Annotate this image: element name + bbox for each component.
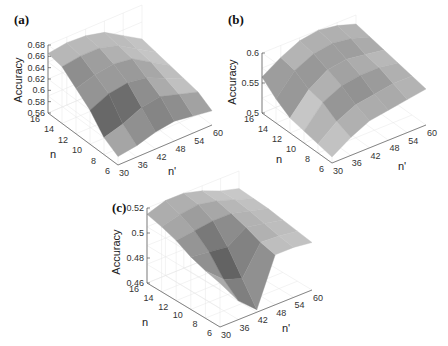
svg-text:16: 16 bbox=[30, 114, 40, 124]
svg-text:48: 48 bbox=[175, 144, 185, 154]
panel-b-zlabel: Accuracy bbox=[226, 59, 238, 105]
svg-text:0.58: 0.58 bbox=[27, 97, 45, 107]
svg-text:0.62: 0.62 bbox=[27, 74, 45, 84]
svg-text:0.64: 0.64 bbox=[27, 63, 45, 73]
panel-b-xlabel: n' bbox=[398, 160, 406, 172]
panel-b-surface-plot: (b) Accuracy n n' 0.50.550.6681012141630… bbox=[226, 12, 437, 176]
svg-text:36: 36 bbox=[138, 160, 148, 170]
svg-text:0.48: 0.48 bbox=[126, 253, 144, 263]
panel-b-ylabel: n bbox=[276, 153, 282, 165]
svg-text:54: 54 bbox=[194, 136, 204, 146]
svg-text:10: 10 bbox=[72, 145, 82, 155]
svg-text:14: 14 bbox=[44, 124, 54, 134]
svg-text:42: 42 bbox=[157, 152, 167, 162]
svg-text:14: 14 bbox=[258, 124, 268, 134]
svg-text:8: 8 bbox=[305, 154, 310, 164]
panel-a-label: (a) bbox=[14, 12, 29, 27]
panel-a-surface bbox=[48, 5, 212, 165]
svg-text:48: 48 bbox=[389, 143, 399, 153]
panel-c-surface bbox=[147, 171, 312, 327]
svg-text:0.68: 0.68 bbox=[27, 40, 45, 50]
panel-a-ylabel: n bbox=[50, 148, 56, 160]
svg-text:42: 42 bbox=[371, 151, 381, 161]
panel-c-label: (c) bbox=[112, 200, 126, 215]
svg-text:36: 36 bbox=[352, 158, 362, 168]
svg-text:0.6: 0.6 bbox=[32, 85, 45, 95]
panel-a-surface-plot: (a) Accuracy n n' 0.560.580.60.620.640.6… bbox=[12, 5, 223, 178]
panel-b-label: (b) bbox=[228, 12, 244, 27]
panel-a-xlabel: n' bbox=[168, 165, 176, 177]
svg-text:0.55: 0.55 bbox=[241, 78, 259, 88]
svg-text:48: 48 bbox=[276, 308, 286, 318]
svg-text:14: 14 bbox=[144, 293, 154, 303]
panel-b-surface bbox=[262, 15, 426, 163]
svg-text:6: 6 bbox=[319, 164, 324, 174]
svg-text:10: 10 bbox=[286, 144, 296, 154]
svg-text:12: 12 bbox=[272, 134, 282, 144]
svg-text:30: 30 bbox=[333, 166, 343, 176]
svg-text:0.52: 0.52 bbox=[126, 203, 144, 213]
svg-text:0.66: 0.66 bbox=[27, 51, 45, 61]
svg-text:6: 6 bbox=[105, 166, 110, 176]
svg-text:54: 54 bbox=[408, 136, 418, 146]
figure: (a) Accuracy n n' 0.560.580.60.620.640.6… bbox=[0, 0, 448, 346]
svg-text:60: 60 bbox=[213, 128, 223, 138]
panel-a-zlabel: Accuracy bbox=[12, 57, 24, 103]
svg-text:42: 42 bbox=[258, 315, 268, 325]
svg-text:10: 10 bbox=[173, 310, 183, 320]
svg-text:12: 12 bbox=[58, 135, 68, 145]
svg-text:0.5: 0.5 bbox=[131, 228, 144, 238]
svg-text:60: 60 bbox=[427, 128, 437, 138]
svg-text:8: 8 bbox=[192, 319, 197, 329]
svg-text:6: 6 bbox=[207, 328, 212, 338]
svg-text:30: 30 bbox=[221, 330, 231, 340]
svg-text:54: 54 bbox=[295, 300, 305, 310]
svg-text:0.6: 0.6 bbox=[246, 48, 259, 58]
svg-text:36: 36 bbox=[239, 323, 249, 333]
svg-text:16: 16 bbox=[244, 114, 254, 124]
panel-c-zlabel: Accuracy bbox=[110, 229, 122, 275]
svg-text:60: 60 bbox=[313, 293, 323, 303]
panel-c-xlabel: n' bbox=[282, 322, 290, 334]
svg-text:8: 8 bbox=[91, 156, 96, 166]
svg-text:30: 30 bbox=[119, 168, 129, 178]
svg-text:12: 12 bbox=[158, 302, 168, 312]
panel-c-surface-plot: (c) Accuracy n n' 0.460.480.50.526810121… bbox=[110, 171, 323, 340]
panel-c-ylabel: n bbox=[142, 316, 148, 328]
svg-text:16: 16 bbox=[129, 284, 139, 294]
